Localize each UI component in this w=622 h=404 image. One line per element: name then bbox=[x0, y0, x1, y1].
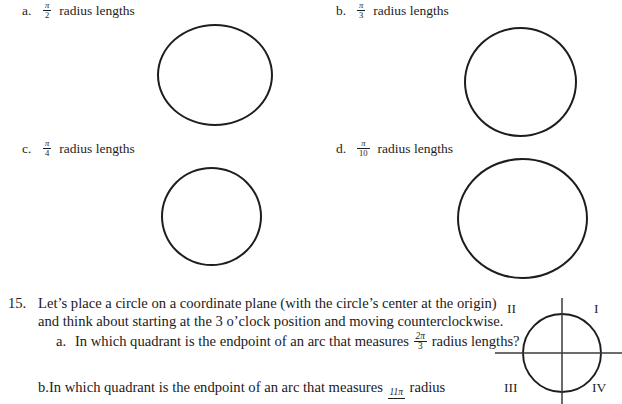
option-c-circle bbox=[161, 167, 262, 266]
option-a-text: radius lengths bbox=[59, 3, 134, 18]
option-d-letter: d. bbox=[336, 141, 356, 157]
quadrant-label-iii: III bbox=[504, 381, 518, 395]
question-15-sub-b-text-before: In which quadrant is the endpoint of an … bbox=[49, 379, 383, 395]
option-c-denominator: 4 bbox=[43, 149, 51, 158]
question-15-sub-a-text-before: In which quadrant is the endpoint of an … bbox=[75, 333, 409, 349]
option-d-fraction: π10 bbox=[357, 139, 370, 158]
option-c-fraction: π4 bbox=[43, 139, 51, 158]
question-15-sub-b-numerator: 11π bbox=[388, 388, 405, 399]
question-15-sub-a-denominator: 3 bbox=[414, 342, 427, 352]
option-d-circle bbox=[457, 158, 588, 279]
option-c-label: c.π4radius lengths bbox=[22, 140, 135, 159]
option-b-denominator: 3 bbox=[357, 11, 365, 20]
option-a-label: a.π2radius lengths bbox=[22, 2, 135, 21]
question-15-sub-b-text-after: radius bbox=[410, 379, 446, 395]
quadrant-diagram: II I III IV bbox=[495, 294, 622, 404]
option-a-fraction: π2 bbox=[43, 1, 51, 20]
question-15-line-2: and think about starting at the 3 o’cloc… bbox=[38, 312, 508, 330]
quadrant-label-ii: II bbox=[507, 302, 516, 316]
option-b-text: radius lengths bbox=[373, 3, 448, 18]
option-c-letter: c. bbox=[22, 141, 42, 157]
question-15-sub-b-letter: b. bbox=[38, 379, 49, 395]
option-b-circle bbox=[464, 27, 577, 137]
option-a-circle bbox=[157, 24, 273, 126]
option-d-label: d.π10radius lengths bbox=[336, 140, 453, 159]
option-c-text: radius lengths bbox=[59, 141, 134, 156]
question-15-sub-a-fraction: 2π3 bbox=[414, 332, 427, 352]
option-b-letter: b. bbox=[336, 3, 356, 19]
question-15-body: Let’s place a circle on a coordinate pla… bbox=[38, 294, 508, 353]
question-15-sub-a: a.In which quadrant is the endpoint of a… bbox=[56, 332, 508, 353]
quadrant-label-iv: IV bbox=[592, 381, 606, 395]
option-a-denominator: 2 bbox=[43, 11, 51, 20]
option-d-text: radius lengths bbox=[378, 141, 453, 156]
option-b-fraction: π3 bbox=[357, 1, 365, 20]
question-15: 15. Let’s place a circle on a coordinate… bbox=[8, 294, 508, 353]
question-15-sub-a-letter: a. bbox=[56, 332, 75, 350]
worksheet-page: a.π2radius lengths b.π3radius lengths c.… bbox=[0, 0, 622, 404]
question-15-number: 15. bbox=[8, 294, 36, 312]
question-15-sub-b-fraction: 11π bbox=[388, 388, 405, 399]
quadrant-label-i: I bbox=[594, 302, 599, 316]
question-15-line-1: Let’s place a circle on a coordinate pla… bbox=[38, 294, 508, 312]
option-b-label: b.π3radius lengths bbox=[336, 2, 449, 21]
question-15-sub-b: b.In which quadrant is the endpoint of a… bbox=[38, 378, 445, 400]
option-d-denominator: 10 bbox=[357, 149, 370, 158]
option-a-letter: a. bbox=[22, 3, 42, 19]
